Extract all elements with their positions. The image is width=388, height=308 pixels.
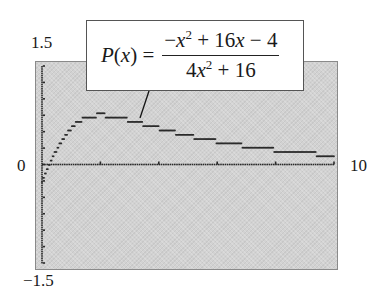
formula-callout: P(x) = −x2 + 16x − 4 4x2 + 16 [86, 20, 304, 91]
axes [41, 65, 335, 264]
xmax-label: 10 [350, 157, 367, 174]
annotation-leader-line [140, 91, 149, 118]
ymin-label: −1.5 [23, 272, 54, 289]
formula-numerator: −x2 + 16x − 4 [162, 28, 279, 56]
xmin-label: 0 [17, 157, 26, 174]
formula-fraction: −x2 + 16x − 4 4x2 + 16 [162, 28, 279, 83]
function-name: P(x) = [101, 43, 154, 68]
formula-denominator: 4x2 + 16 [186, 56, 256, 83]
ymax-label: 1.5 [31, 34, 52, 51]
plotted-curve [41, 113, 335, 183]
